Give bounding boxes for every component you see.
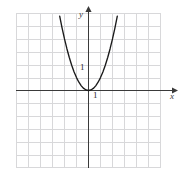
y-axis — [85, 6, 91, 168]
coordinate-plot — [0, 0, 181, 176]
x-axis-unit-tick-label: 1 — [93, 91, 98, 100]
parabola-figure: y x 1 1 — [0, 0, 181, 176]
x-axis-label: x — [170, 92, 174, 101]
y-axis-unit-tick-label: 1 — [80, 63, 85, 72]
y-axis-label: y — [79, 10, 83, 19]
